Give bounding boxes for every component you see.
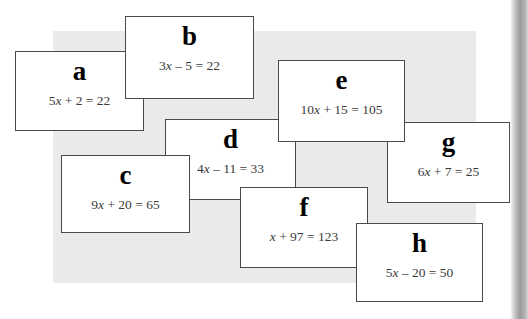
card-letter-a: a [73,58,87,85]
equation-card-b[interactable]: b 3x – 5 = 22 [125,16,254,99]
card-letter-b: b [182,23,197,50]
equation-card-g[interactable]: g 6x + 7 = 25 [387,122,510,203]
card-equation-g: 6x + 7 = 25 [418,164,480,180]
equation-card-c[interactable]: c 9x + 20 = 65 [61,155,190,233]
card-equation-b: 3x – 5 = 22 [159,58,220,74]
card-equation-h: 5x – 20 = 50 [386,265,454,281]
card-equation-a: 5x + 2 = 22 [49,93,111,109]
worksheet-page: a 5x + 2 = 22 b 3x – 5 = 22 c 9x + 20 = … [0,0,528,319]
equation-card-e[interactable]: e 10x + 15 = 105 [278,60,405,142]
card-equation-c: 9x + 20 = 65 [91,197,159,213]
card-letter-g: g [442,129,456,156]
card-letter-d: d [223,126,238,153]
card-equation-d: 4x – 11 = 33 [197,161,264,177]
equation-card-h[interactable]: h 5x – 20 = 50 [356,223,483,302]
scan-edge-shadow [510,0,528,319]
card-letter-f: f [300,194,309,221]
card-letter-h: h [412,230,427,257]
card-equation-e: 10x + 15 = 105 [301,102,383,118]
card-letter-e: e [336,67,348,94]
equation-card-f[interactable]: f x + 97 = 123 [240,187,368,268]
card-letter-c: c [120,162,132,189]
card-equation-f: x + 97 = 123 [270,229,338,245]
